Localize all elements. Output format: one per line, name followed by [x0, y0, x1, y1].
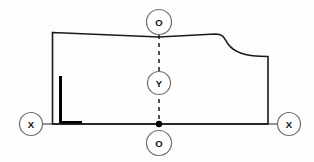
callout-middle[interactable]: Y [148, 72, 171, 95]
callout-top[interactable]: O [147, 10, 172, 35]
diagram-canvas: OYOXX [0, 0, 314, 162]
thick-reference-bracket [59, 76, 82, 124]
callout-bottom-label: O [155, 138, 163, 149]
callout-top-label: O [155, 17, 163, 28]
callout-right[interactable]: X [278, 113, 301, 136]
callout-bottom[interactable]: O [147, 131, 172, 156]
technical-diagram: OYOXX [0, 0, 314, 162]
callout-middle-label: Y [156, 78, 163, 89]
origin-point [156, 121, 162, 127]
callout-left-label: X [28, 119, 35, 130]
callout-left[interactable]: X [20, 113, 43, 136]
callout-right-label: X [286, 119, 293, 130]
